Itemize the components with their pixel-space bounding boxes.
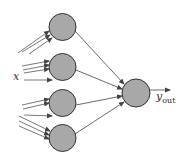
hidden-node-1 (49, 14, 76, 41)
input-label: x (13, 70, 19, 83)
neural-network-diagram (0, 0, 188, 162)
hidden-node-3 (49, 90, 76, 117)
output-label-sub: out (162, 96, 175, 105)
input-edges-h2 (22, 61, 52, 80)
input-edges-h3 (22, 99, 52, 116)
hidden-node-4 (49, 125, 76, 152)
input-edges-h4 (19, 116, 50, 139)
input-edges-h1 (18, 31, 52, 54)
output-node (122, 79, 150, 107)
hidden-to-output-edges (75, 31, 124, 134)
output-label: yout (156, 90, 175, 105)
hidden-node-2 (49, 54, 76, 81)
